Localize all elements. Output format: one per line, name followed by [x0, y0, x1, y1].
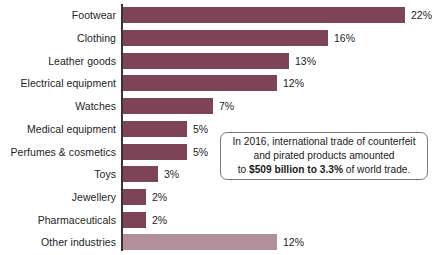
bar-jewellery [123, 189, 146, 205]
category-label: Perfumes & cosmetics [11, 146, 116, 158]
category-label: Electrical equipment [20, 77, 116, 89]
bar-row: Watches 7% [0, 95, 442, 118]
bar-row: Clothing 16% [0, 27, 442, 50]
value-label: 5% [193, 123, 208, 135]
category-label: Leather goods [48, 55, 116, 67]
category-label: Jewellery [72, 191, 116, 203]
bar-row: Jewellery 2% [0, 186, 442, 209]
bar-watches [123, 98, 213, 114]
category-label: Pharmaceuticals [38, 214, 116, 226]
bar-medical-equipment [123, 121, 187, 137]
bar-row: Pharmaceuticals 2% [0, 208, 442, 231]
category-label: Footwear [72, 9, 116, 21]
callout-line-1: In 2016, international trade of counterf… [233, 135, 416, 149]
callout-line-2: and pirated products amounted [253, 149, 394, 163]
counterfeit-trade-bar-chart: Footwear 22% Clothing 16% Leather goods … [0, 0, 442, 255]
callout-highlight: $509 billion to 3.3% [249, 164, 343, 175]
bar-other-industries [123, 234, 277, 250]
callout-prefix: to [238, 164, 249, 175]
bar-row: Footwear 22% [0, 4, 442, 27]
value-label: 16% [334, 32, 355, 44]
callout-line-3: to $509 billion to 3.3% of world trade. [238, 163, 411, 177]
bar-row: Leather goods 13% [0, 49, 442, 72]
value-label: 22% [411, 9, 432, 21]
bar-clothing [123, 30, 328, 46]
value-label: 3% [164, 168, 179, 180]
value-label: 12% [283, 77, 304, 89]
category-label: Other industries [41, 236, 116, 248]
bar-electrical-equipment [123, 75, 277, 91]
value-label: 12% [283, 236, 304, 248]
value-label: 13% [295, 55, 316, 67]
category-label: Watches [75, 100, 116, 112]
bar-row: Electrical equipment 12% [0, 72, 442, 95]
category-label: Medical equipment [27, 123, 116, 135]
value-label: 2% [152, 191, 167, 203]
bar-leather-goods [123, 53, 289, 69]
value-label: 5% [193, 146, 208, 158]
summary-callout: In 2016, international trade of counterf… [220, 132, 428, 180]
category-label: Toys [94, 168, 116, 180]
value-label: 7% [219, 100, 234, 112]
callout-suffix: of world trade. [343, 164, 410, 175]
bar-row: Other industries 12% [0, 231, 442, 254]
plot-area: Footwear 22% Clothing 16% Leather goods … [0, 0, 442, 255]
category-label: Clothing [77, 32, 116, 44]
bar-footwear [123, 7, 405, 23]
bar-pharmaceuticals [123, 212, 146, 228]
value-label: 2% [152, 214, 167, 226]
bar-perfumes-cosmetics [123, 144, 187, 160]
bar-toys [123, 166, 158, 182]
